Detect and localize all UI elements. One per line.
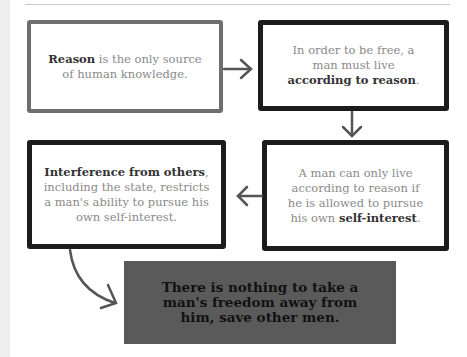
curved-arrow-icon [70,250,116,308]
arrow-left-icon [238,187,262,205]
arrow-right-icon [224,60,251,78]
arrows-layer [0,0,467,357]
arrow-down-icon [343,112,361,136]
